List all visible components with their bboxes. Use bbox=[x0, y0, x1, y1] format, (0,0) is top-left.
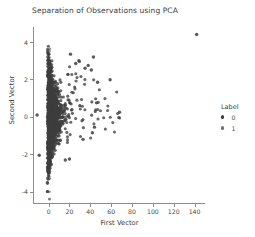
y-tick bbox=[30, 192, 33, 193]
legend-item[interactable]: 1 bbox=[216, 123, 254, 133]
x-tick-label: 40 bbox=[80, 208, 100, 215]
x-tick-label: 140 bbox=[185, 208, 205, 215]
legend-item-label: 1 bbox=[231, 125, 235, 132]
y-tick-label: 4 bbox=[16, 39, 28, 46]
x-axis-label: First Vector bbox=[34, 219, 205, 227]
x-tick-label: 0 bbox=[39, 208, 59, 215]
x-axis-spine bbox=[33, 203, 205, 204]
y-tick bbox=[30, 154, 33, 155]
x-tick-label: 120 bbox=[164, 208, 184, 215]
x-tick-label: 80 bbox=[122, 208, 142, 215]
x-tick bbox=[132, 204, 133, 207]
x-tick bbox=[111, 204, 112, 207]
x-tick bbox=[69, 204, 70, 207]
legend-marker-icon bbox=[221, 115, 224, 118]
y-tick-label: 2 bbox=[16, 76, 28, 83]
x-tick bbox=[153, 204, 154, 207]
y-axis-spine bbox=[33, 27, 34, 204]
x-tick-label: 20 bbox=[59, 208, 79, 215]
y-tick-label: -4 bbox=[16, 188, 28, 195]
y-tick bbox=[30, 42, 33, 43]
y-tick bbox=[30, 79, 33, 80]
x-tick bbox=[90, 204, 91, 207]
page-title: Separation of Observations using PCA bbox=[0, 6, 210, 15]
legend-item[interactable]: 0 bbox=[216, 112, 254, 122]
legend-item-label: 0 bbox=[231, 114, 235, 121]
x-tick bbox=[195, 204, 196, 207]
plot-area bbox=[34, 27, 205, 203]
x-tick-label: 100 bbox=[143, 208, 163, 215]
x-tick bbox=[174, 204, 175, 207]
y-tick bbox=[30, 117, 33, 118]
pca-scatter-figure: Separation of Observations using PCA 020… bbox=[0, 0, 255, 237]
legend-marker-icon bbox=[221, 126, 224, 129]
y-tick-label: -2 bbox=[16, 151, 28, 158]
legend-title: Label bbox=[221, 103, 254, 111]
x-tick-label: 60 bbox=[101, 208, 121, 215]
legend-items: 01 bbox=[216, 112, 254, 133]
y-tick-label: 0 bbox=[16, 113, 28, 120]
y-axis-label: Second Vector bbox=[8, 65, 16, 135]
legend: Label 01 bbox=[216, 103, 254, 133]
x-tick bbox=[49, 204, 50, 207]
scatter-canvas bbox=[34, 27, 205, 203]
